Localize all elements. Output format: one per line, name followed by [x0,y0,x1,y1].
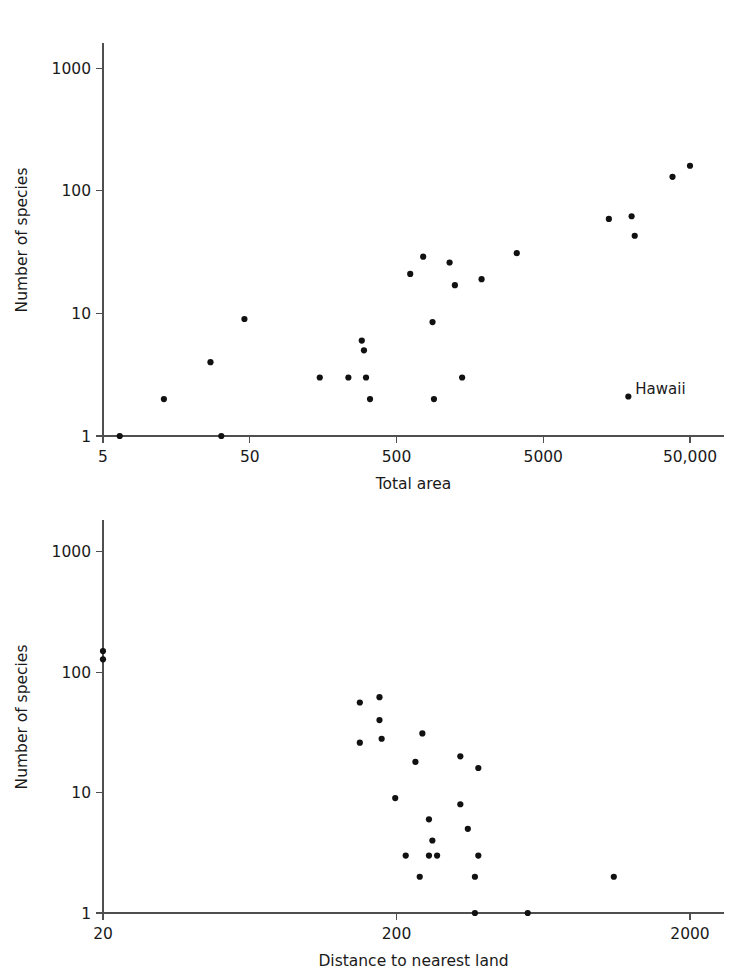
data-point [345,374,351,380]
data-point [367,396,373,402]
data-point [207,359,213,365]
data-point [475,852,481,858]
data-point [407,271,413,277]
data-point [625,393,631,399]
x-axis-title: Total area [375,475,452,493]
data-point [472,910,478,916]
y-axis-tick-label: 1000 [52,60,91,78]
data-point [317,374,323,380]
y-axis-title: Number of species [13,645,31,790]
figure-container: 1101001000550500500050,000Total areaNumb… [0,0,755,975]
data-point [632,233,638,239]
scatter-plot-species-vs-distance: 1101001000202002000Distance to nearest l… [0,500,755,975]
data-point [687,163,693,169]
x-axis-tick-label: 5 [98,448,108,466]
data-point [420,254,426,260]
y-axis-tick-label: 100 [61,182,91,200]
data-point [379,736,385,742]
x-axis-tick-label: 200 [382,925,412,943]
data-point [429,319,435,325]
y-axis-tick-label: 1 [81,905,91,923]
y-axis-tick-label: 100 [61,664,91,682]
x-axis-title: Distance to nearest land [318,952,508,970]
data-point [611,874,617,880]
data-point [426,816,432,822]
point-annotation-label: Hawaii [635,380,685,398]
data-point [457,753,463,759]
data-point [376,717,382,723]
data-point [357,699,363,705]
data-point [363,374,369,380]
data-point [403,852,409,858]
y-axis-tick-label: 1000 [52,543,91,561]
data-point [465,826,471,832]
data-point [629,213,635,219]
data-point [376,694,382,700]
chart-panel-species-vs-area: 1101001000550500500050,000Total areaNumb… [0,0,755,500]
data-point [475,765,481,771]
scatter-plot-species-vs-area: 1101001000550500500050,000Total areaNumb… [0,0,755,500]
x-axis-tick-label: 5000 [524,448,563,466]
data-point [392,795,398,801]
data-point [359,337,365,343]
y-axis-tick-label: 1 [81,428,91,446]
data-point [357,740,363,746]
x-axis-tick-label: 2000 [670,925,709,943]
data-point [669,174,675,180]
data-point [446,259,452,265]
data-point [361,347,367,353]
data-point [218,433,224,439]
data-point [606,216,612,222]
data-point [514,250,520,256]
data-point [459,374,465,380]
data-point [478,276,484,282]
data-point [161,396,167,402]
data-point [452,282,458,288]
data-point [241,316,247,322]
y-axis-tick-label: 10 [71,784,91,802]
data-point [426,852,432,858]
x-axis-tick-label: 20 [93,925,113,943]
data-point [434,852,440,858]
data-point [457,801,463,807]
data-point [431,396,437,402]
data-point [429,837,435,843]
data-point [100,656,106,662]
x-axis-tick-label: 50,000 [663,448,717,466]
x-axis-tick-label: 50 [240,448,260,466]
data-point [472,874,478,880]
x-axis-tick-label: 500 [382,448,412,466]
data-point [419,730,425,736]
y-axis-title: Number of species [13,168,31,313]
y-axis-tick-label: 10 [71,305,91,323]
chart-panel-species-vs-distance: 1101001000202002000Distance to nearest l… [0,500,755,975]
data-point [412,759,418,765]
data-point [417,874,423,880]
data-point [525,910,531,916]
data-point [100,648,106,654]
data-point [117,433,123,439]
